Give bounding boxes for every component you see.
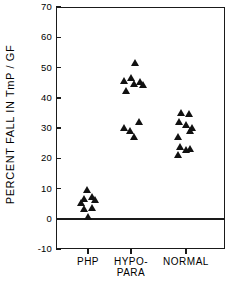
y-axis-tick (56, 249, 61, 251)
data-point-marker (130, 80, 138, 87)
y-axis-tick (56, 97, 61, 99)
y-axis-tick-label: 40 (12, 93, 52, 103)
data-point-marker (174, 133, 182, 140)
data-point-marker (139, 81, 147, 88)
y-axis-tick-label: -10 (12, 244, 52, 254)
data-point-marker (91, 196, 99, 203)
y-axis-tick-label: 0 (12, 214, 52, 224)
y-axis-tick-label: 10 (12, 184, 52, 194)
data-point-marker (174, 151, 182, 158)
x-axis-tick (185, 249, 187, 254)
y-axis-tick (56, 188, 61, 190)
y-axis-tick-label: 70 (12, 2, 52, 12)
data-point-marker (182, 146, 190, 153)
x-axis-tick (87, 249, 89, 254)
data-point-marker (131, 59, 139, 66)
y-axis-tick (56, 218, 61, 220)
plot-area (56, 7, 225, 249)
x-axis-tick (130, 249, 132, 254)
data-point-marker (135, 118, 143, 125)
y-axis-tick-label: 50 (12, 63, 52, 73)
data-point-marker (80, 205, 88, 212)
y-axis-tick (56, 67, 61, 69)
y-axis-tick (56, 6, 61, 8)
y-axis-tick-label: 20 (12, 153, 52, 163)
y-axis-tick-label: 30 (12, 123, 52, 133)
data-point-marker (177, 109, 185, 116)
y-axis-tick (56, 127, 61, 129)
zero-reference-line (56, 218, 225, 220)
y-axis-tick (56, 158, 61, 160)
data-point-marker (88, 204, 96, 211)
data-point-marker (122, 87, 130, 94)
data-point-marker (186, 127, 194, 134)
data-point-marker (84, 213, 92, 220)
y-axis-tick (56, 37, 61, 39)
x-axis-tick-label: NORMAL (151, 256, 221, 267)
data-point-marker (185, 110, 193, 117)
scatter-plot-figure: PERCENT FALL IN TmP / GF 706050403020100… (0, 0, 234, 283)
data-point-marker (83, 186, 91, 193)
data-point-marker (130, 133, 138, 140)
data-point-marker (120, 77, 128, 84)
y-axis-tick-label: 60 (12, 32, 52, 42)
